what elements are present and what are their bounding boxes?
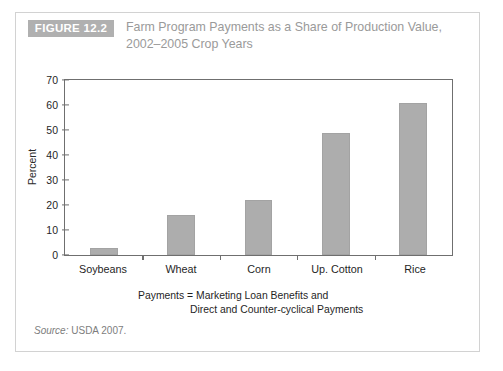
y-tick-label: 20 [46, 199, 58, 211]
x-tick-mark [142, 255, 143, 260]
y-tick-mark [62, 229, 69, 230]
y-tick-label: 0 [52, 249, 58, 261]
y-tick-mark [62, 154, 69, 155]
x-tick-mark [375, 255, 376, 260]
figure-container: FIGURE 12.2 Farm Program Payments as a S… [15, 12, 480, 352]
y-tick-label: 30 [46, 174, 58, 186]
x-category-label-corn: Corn [247, 263, 270, 275]
x-tick-mark [220, 255, 221, 260]
chart-region: Percent 70 60 50 40 30 20 10 0 [16, 13, 481, 353]
x-category-label-up-cotton: Up. Cotton [311, 263, 363, 275]
bar-up-cotton [322, 133, 350, 256]
source-note-label: Source: [34, 325, 68, 336]
y-tick-mark [62, 179, 69, 180]
y-tick-mark [62, 204, 69, 205]
y-tick-label: 50 [46, 124, 58, 136]
x-category-label-soybeans: Soybeans [79, 263, 127, 275]
source-note-text: USDA 2007. [71, 325, 126, 336]
bar-corn [245, 200, 273, 255]
x-category-label-wheat: Wheat [165, 263, 196, 275]
y-axis-title: Percent [26, 137, 38, 197]
bar-rice [399, 103, 427, 255]
x-tick-mark [297, 255, 298, 260]
y-tick-mark [62, 254, 69, 255]
y-tick-label: 10 [46, 224, 58, 236]
y-tick-label: 40 [46, 149, 58, 161]
y-tick-label: 60 [46, 99, 58, 111]
bar-soybeans [90, 248, 118, 256]
chart-footnote-line-1: Payments = Marketing Loan Benefits and [116, 289, 436, 303]
source-note: Source: USDA 2007. [34, 325, 126, 336]
plot-area: 70 60 50 40 30 20 10 0 [64, 79, 453, 256]
chart-footnote: Payments = Marketing Loan Benefits and D… [116, 289, 436, 316]
bar-wheat [167, 215, 195, 255]
x-category-label-rice: Rice [404, 263, 426, 275]
y-tick-mark [62, 129, 69, 130]
y-tick-label: 70 [46, 74, 58, 86]
chart-footnote-line-2: Direct and Counter-cyclical Payments [116, 303, 436, 317]
y-tick-mark [62, 104, 69, 105]
